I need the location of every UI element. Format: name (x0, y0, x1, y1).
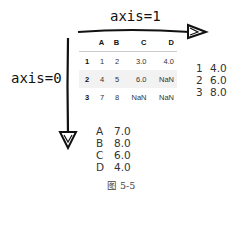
row-index: 3 (79, 88, 92, 106)
table-cell: 4 (92, 70, 107, 88)
figure-caption: 图 5-5 (107, 178, 135, 192)
column-header: D (150, 34, 177, 52)
column-header: B (107, 34, 122, 52)
table-cell: NaN (150, 88, 177, 106)
table-header-row: A B C D (79, 34, 177, 52)
table-cell: NaN (150, 70, 177, 88)
table-row: 3 7 8 NaN NaN (79, 88, 177, 106)
table-cell: 4.0 (150, 52, 177, 71)
table-cell: 2 (107, 52, 122, 71)
series-item: 38.0 (196, 86, 227, 98)
axis1-result-series: 14.0 26.0 38.0 (196, 62, 227, 98)
table-cell: 6.0 (122, 70, 149, 88)
row-index: 1 (79, 52, 92, 71)
series-item: A7.0 (96, 125, 131, 137)
column-header: A (92, 34, 107, 52)
table-cell: 3.0 (122, 52, 149, 71)
dataframe-table: A B C D 1 1 2 3.0 4.0 2 4 5 6.0 NaN (79, 34, 177, 106)
series-item: B8.0 (96, 137, 131, 149)
series-item: 14.0 (196, 62, 227, 74)
axis-0-label: axis=0 (11, 70, 62, 86)
table-cell: NaN (122, 88, 149, 106)
column-header: C (122, 34, 149, 52)
series-item: D4.0 (96, 161, 131, 173)
series-item: C6.0 (96, 149, 131, 161)
series-item: 26.0 (196, 74, 227, 86)
table-cell: 8 (107, 88, 122, 106)
table-row: 2 4 5 6.0 NaN (79, 70, 177, 88)
row-index: 2 (79, 70, 92, 88)
axis0-result-series: A7.0 B8.0 C6.0 D4.0 (96, 125, 131, 173)
column-header (79, 34, 92, 52)
table-cell: 5 (107, 70, 122, 88)
table-cell: 7 (92, 88, 107, 106)
table-cell: 1 (92, 52, 107, 71)
table-row: 1 1 2 3.0 4.0 (79, 52, 177, 71)
